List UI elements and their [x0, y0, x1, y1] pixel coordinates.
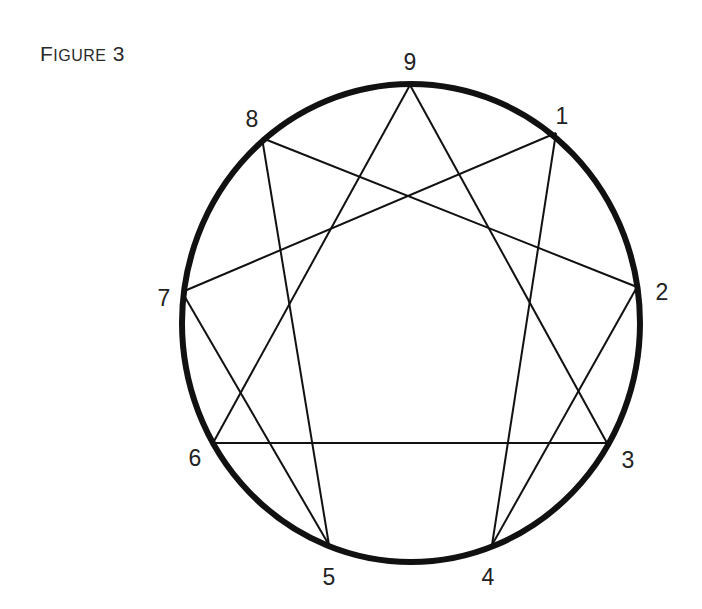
- point-label-1: 1: [556, 103, 569, 129]
- line-4-2: [492, 287, 637, 545]
- line-6-9: [213, 85, 410, 443]
- point-label-5: 5: [323, 564, 336, 590]
- line-8-5: [262, 138, 329, 545]
- point-label-2: 2: [656, 279, 669, 305]
- point-label-3: 3: [622, 447, 635, 473]
- point-label-8: 8: [246, 106, 259, 132]
- point-label-7: 7: [158, 285, 171, 311]
- enneagram-diagram: 123456789: [0, 0, 702, 609]
- point-labels: 123456789: [158, 49, 669, 590]
- point-label-9: 9: [404, 49, 417, 75]
- line-1-4: [492, 133, 556, 545]
- outer-circle: [182, 84, 640, 562]
- point-label-4: 4: [482, 564, 495, 590]
- line-7-1: [182, 133, 556, 292]
- point-label-6: 6: [189, 445, 202, 471]
